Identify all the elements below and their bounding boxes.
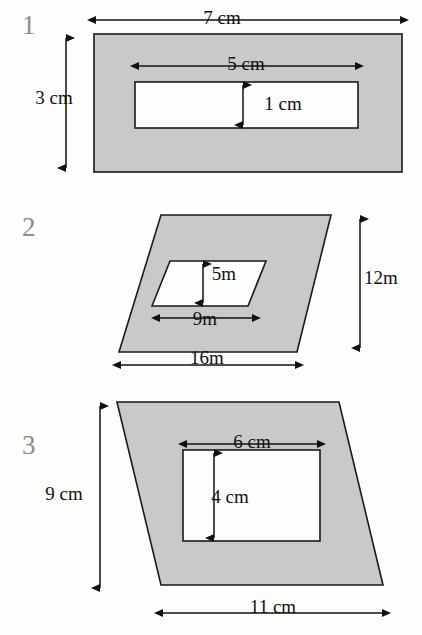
label-figure2-inner-base: 9m	[193, 309, 217, 328]
figure-3-shapes	[117, 402, 383, 585]
label-figure2-inner-height: 5m	[212, 264, 236, 283]
label-figure1-outer-height: 3 cm	[35, 88, 72, 107]
label-figure2-outer-base: 16m	[190, 348, 224, 367]
label-figure2-outer-height: 12m	[364, 268, 398, 287]
figure-2-number: 2	[22, 214, 36, 241]
figure-sheet: 1 2 3 7 cm 3 cm 5 cm 1 cm 16m 12m 5m 9m …	[0, 0, 422, 635]
figure-1-inner-rectangle	[135, 82, 358, 128]
label-figure3-outer-base: 11 cm	[250, 597, 296, 616]
figure-1-number: 1	[22, 12, 36, 39]
label-figure3-inner-width: 6 cm	[233, 432, 270, 451]
figure-3-number: 3	[22, 432, 36, 459]
label-figure1-inner-height: 1 cm	[264, 94, 301, 113]
label-figure1-inner-width: 5 cm	[227, 54, 264, 73]
figure-2-inner-parallelogram	[152, 261, 266, 306]
figure-3-inner-rectangle	[183, 450, 320, 541]
label-figure3-inner-height: 4 cm	[211, 487, 248, 506]
label-figure3-outer-height: 9 cm	[45, 484, 82, 503]
label-figure1-outer-width: 7 cm	[203, 8, 240, 27]
